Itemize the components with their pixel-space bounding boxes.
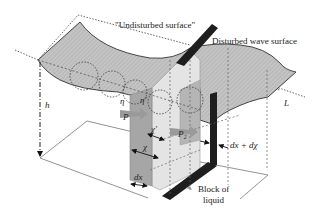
dx-dchi-arrow-left (200, 141, 209, 143)
wave-diagram: h L "Undisturbed surface" Disturbed wave… (0, 0, 331, 216)
label-eta: η (120, 96, 125, 106)
label-undisturbed-surface: "Undisturbed surface" (115, 20, 195, 30)
label-eta-prime: η' (140, 95, 147, 105)
label-block-of: Block of (198, 184, 229, 194)
dx-dchi-arrow-right (219, 145, 228, 148)
label-dx: dx (134, 172, 143, 182)
dx-arrow (131, 184, 147, 186)
label-chi-prime: χ' (150, 124, 158, 134)
label-L: L (283, 98, 289, 108)
liquid-block-vertical (210, 92, 217, 167)
label-P2: P₂ (177, 129, 187, 139)
label-disturbed-wave-surface: Disturbed wave surface (212, 36, 297, 46)
label-liquid: liquid (203, 195, 225, 205)
wave-surface-right (190, 44, 296, 124)
label-P: P (122, 112, 129, 122)
label-h: h (45, 100, 50, 110)
label-dx-dchi: dx + dχ (230, 140, 259, 150)
